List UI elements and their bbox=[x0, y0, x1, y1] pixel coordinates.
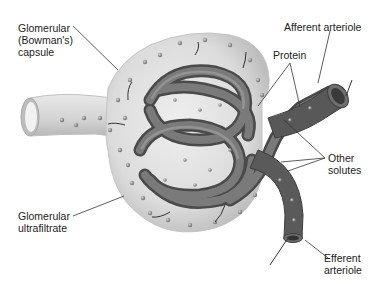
label-protein: Protein bbox=[273, 49, 306, 61]
label-efferent-arteriole: Efferent arteriole bbox=[324, 252, 362, 276]
efferent-arteriole bbox=[250, 150, 303, 243]
label-glomerular-ultrafiltrate: Glomerular ultrafiltrate bbox=[18, 210, 70, 234]
tubule-outlet bbox=[21, 94, 112, 136]
label-afferent-arteriole: Afferent arteriole bbox=[284, 21, 361, 33]
label-other-solutes: Other solutes bbox=[328, 152, 361, 176]
label-bowmans-capsule: Glomerular (Bowman's) capsule bbox=[18, 22, 73, 58]
